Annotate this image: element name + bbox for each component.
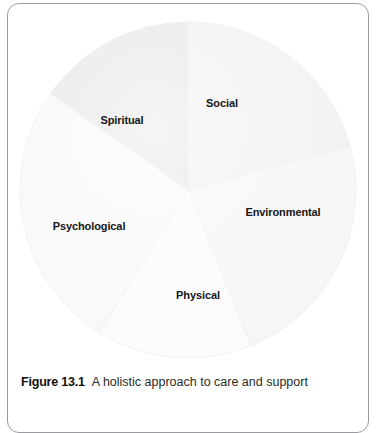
slice-label-psychological: Psychological — [53, 221, 126, 232]
slice-label-physical: Physical — [176, 290, 220, 301]
caption-spacer — [85, 375, 92, 389]
pie-chart-svg — [0, 0, 378, 362]
pie-highlight-overlay — [20, 22, 356, 358]
figure-caption: Figure 13.1 A holistic approach to care … — [21, 375, 361, 391]
slice-label-social: Social — [206, 98, 238, 109]
slice-label-spiritual: Spiritual — [100, 115, 143, 126]
figure-number: Figure 13.1 — [21, 375, 85, 389]
slice-label-environmental: Environmental — [245, 207, 320, 218]
figure-caption-text: A holistic approach to care and support — [92, 375, 308, 389]
pie-chart: Social Environmental Physical Psychologi… — [0, 0, 378, 362]
